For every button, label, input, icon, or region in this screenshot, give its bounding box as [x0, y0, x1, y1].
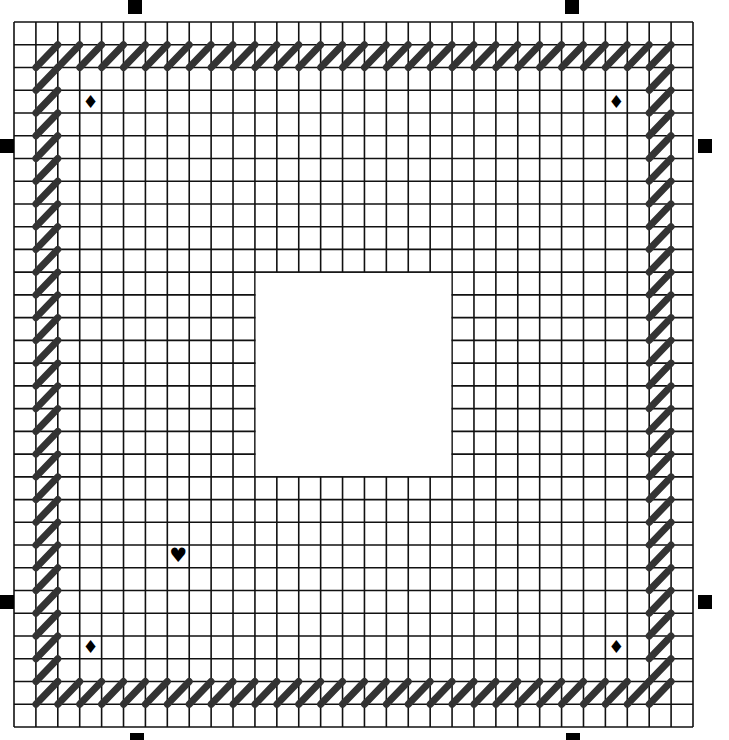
resize-handle-right-top[interactable]	[698, 139, 712, 153]
diamond-icon: ♦	[608, 636, 624, 657]
resize-handle-right-bottom[interactable]	[698, 595, 712, 609]
diamond-icon: ♦	[83, 91, 99, 112]
heart-icon: ♥	[169, 543, 187, 567]
diamond-icon: ♦	[83, 636, 99, 657]
resize-handle-top-left[interactable]	[128, 0, 142, 14]
pattern-canvas: ♦♦♦♦♥	[0, 0, 729, 740]
resize-handle-bottom-right[interactable]	[566, 733, 580, 740]
resize-handle-bottom-left[interactable]	[130, 733, 144, 740]
resize-handle-left-top[interactable]	[0, 139, 14, 153]
resize-handle-top-right[interactable]	[565, 0, 579, 14]
cutout-area	[256, 273, 452, 476]
stitch-chart: ♦♦♦♦♥	[0, 0, 729, 740]
resize-handle-left-bottom[interactable]	[0, 595, 14, 609]
diamond-icon: ♦	[608, 91, 624, 112]
